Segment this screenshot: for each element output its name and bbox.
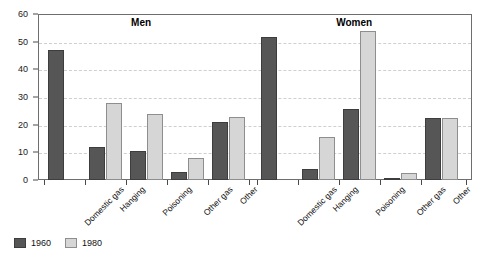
x-tick-mark bbox=[421, 180, 422, 185]
x-tick-mark bbox=[339, 180, 340, 185]
bar-women-poisoning-1980 bbox=[360, 31, 376, 180]
x-label-women-other: Other bbox=[451, 185, 472, 206]
bar-women-other-1980 bbox=[442, 118, 458, 180]
x-label-women-poisoning: Poisoning bbox=[374, 185, 406, 217]
legend-swatch-1960 bbox=[14, 238, 26, 248]
bar-women-other-1960 bbox=[425, 118, 441, 180]
legend-swatch-1980 bbox=[65, 238, 77, 248]
bar-men-domestic-gas-1960 bbox=[48, 50, 64, 180]
bar-men-other-gas-1980 bbox=[188, 158, 204, 180]
x-label-men-domestic-gas: Domestic gas bbox=[83, 185, 125, 227]
y-tick-label: 60 bbox=[18, 10, 28, 19]
group-title-men: Men bbox=[131, 17, 151, 28]
y-tick-label: 40 bbox=[18, 65, 28, 74]
x-tick-mark bbox=[126, 180, 127, 185]
x-tick-mark bbox=[249, 180, 250, 185]
bar-women-domestic-gas-1960 bbox=[261, 37, 277, 180]
bar-men-hanging-1980 bbox=[106, 103, 122, 180]
x-label-men-other-gas: Other gas bbox=[202, 185, 234, 217]
bar-women-hanging-1960 bbox=[302, 169, 318, 180]
x-label-men-other: Other bbox=[238, 185, 259, 206]
chart-page: 0102030405060 Domestic gasHangingPoisoni… bbox=[0, 0, 481, 262]
x-tick-mark bbox=[257, 180, 258, 185]
bar-men-other-1980 bbox=[229, 117, 245, 180]
x-tick-mark bbox=[298, 180, 299, 185]
x-axis-ticks bbox=[38, 180, 472, 186]
bar-men-other-gas-1960 bbox=[171, 172, 187, 180]
y-axis: 0102030405060 bbox=[0, 0, 38, 200]
bar-women-hanging-1980 bbox=[319, 137, 335, 180]
x-label-women-domestic-gas: Domestic gas bbox=[296, 185, 338, 227]
x-tick-mark bbox=[208, 180, 209, 185]
x-label-men-hanging: Hanging bbox=[118, 185, 146, 213]
y-tick-label: 20 bbox=[18, 120, 28, 129]
x-tick-mark bbox=[44, 180, 45, 185]
bar-men-poisoning-1980 bbox=[147, 114, 163, 180]
y-tick-label: 10 bbox=[18, 148, 28, 157]
x-tick-mark bbox=[466, 180, 467, 185]
legend-item-1960: 1960 bbox=[14, 238, 51, 248]
bar-men-other-1960 bbox=[212, 122, 228, 180]
x-tick-mark bbox=[380, 180, 381, 185]
bar-women-other-gas-1980 bbox=[401, 173, 417, 180]
x-label-women-hanging: Hanging bbox=[331, 185, 359, 213]
bar-men-hanging-1960 bbox=[89, 147, 105, 180]
x-tick-mark bbox=[85, 180, 86, 185]
x-label-women-other-gas: Other gas bbox=[415, 185, 447, 217]
legend: 19601980 bbox=[14, 238, 102, 248]
legend-label-1960: 1960 bbox=[31, 239, 51, 248]
legend-item-1980: 1980 bbox=[65, 238, 102, 248]
y-tick-label: 0 bbox=[23, 176, 28, 185]
legend-label-1980: 1980 bbox=[82, 239, 102, 248]
bar-women-poisoning-1960 bbox=[343, 109, 359, 180]
x-tick-mark bbox=[167, 180, 168, 185]
y-tick-label: 50 bbox=[18, 37, 28, 46]
group-title-women: Women bbox=[336, 17, 372, 28]
bar-men-poisoning-1960 bbox=[130, 151, 146, 180]
bars-layer bbox=[38, 14, 472, 180]
y-tick-label: 30 bbox=[18, 93, 28, 102]
x-label-men-poisoning: Poisoning bbox=[161, 185, 193, 217]
